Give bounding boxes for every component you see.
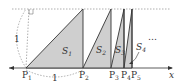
right-angle-marker	[29, 9, 33, 14]
label-p1: P1	[22, 70, 32, 81]
region-s2	[83, 9, 111, 68]
label-p5: P5	[131, 70, 141, 81]
triangle-sequence-diagram: 1 1 S1 S2 S3 S4 … P1 P2 P3 P4 P5 x	[0, 0, 182, 82]
vertical-guide	[26, 9, 29, 68]
label-p4: P4	[121, 70, 131, 81]
unit-label-horizontal: 1	[52, 73, 58, 82]
label-p3: P3	[109, 70, 119, 81]
region-s4	[124, 9, 132, 68]
left-arrow-icon	[9, 66, 14, 70]
axis-label-x: x	[169, 70, 174, 80]
label-p2: P2	[79, 70, 89, 81]
region-s3	[111, 9, 124, 68]
label-s4: S4	[136, 42, 146, 53]
unit-label-vertical: 1	[14, 34, 20, 44]
ellipsis: …	[148, 32, 157, 42]
region-s1	[26, 9, 83, 68]
